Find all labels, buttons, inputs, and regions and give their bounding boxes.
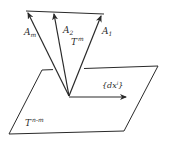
label-t-m: Tm bbox=[71, 35, 84, 47]
triangle-top-edge bbox=[26, 11, 104, 14]
tangent-space-diagram: Am A2 A1 Tm {dxi} Tn-m bbox=[0, 0, 169, 144]
plane-top-edge-right bbox=[84, 66, 158, 69]
label-a-1: A1 bbox=[101, 26, 112, 37]
label-a-m: Am bbox=[23, 27, 37, 38]
label-dx-i: {dxi} bbox=[102, 80, 123, 90]
label-a-2: A2 bbox=[62, 25, 74, 36]
plane-bottom-edge bbox=[9, 131, 124, 134]
vector-a-1-arrow bbox=[69, 16, 101, 96]
plane-t-n-m bbox=[9, 66, 158, 134]
plane-right-edge bbox=[124, 66, 158, 131]
label-t-n-m: Tn-m bbox=[25, 116, 44, 128]
